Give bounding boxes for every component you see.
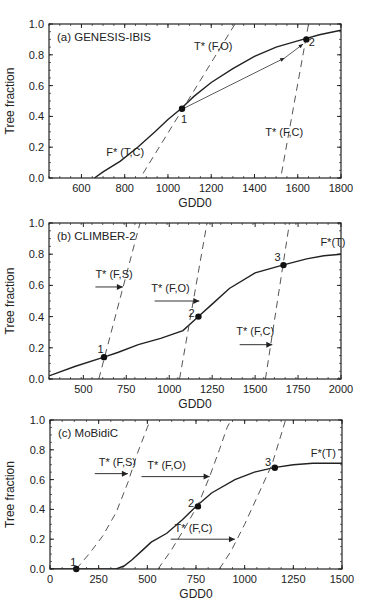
x-tick-label: 1400	[242, 182, 266, 194]
x-tick-label: 1000	[156, 182, 180, 194]
x-tick-label: 600	[72, 182, 90, 194]
x-axis-label: GDD0	[178, 196, 212, 210]
point-label: 1	[181, 113, 187, 125]
dashed-t-f-c-	[219, 420, 285, 569]
x-tick-label: 0	[47, 573, 53, 585]
y-tick-label: 1.0	[29, 18, 44, 30]
panels: 600800100012001400160018000.00.20.40.60.…	[3, 18, 354, 601]
x-tick-label: 2000	[329, 383, 353, 395]
arrow-head-icon	[204, 474, 210, 480]
panel-title: (a) GENESIS-IBIS	[57, 31, 151, 43]
panel-title: (b) CLIMBER-2	[57, 230, 136, 242]
point-label: 3	[265, 456, 271, 468]
y-axis-label: Tree fraction	[3, 268, 17, 335]
annotation-label: F*(T)	[311, 447, 336, 459]
y-tick-label: 1.0	[29, 217, 44, 229]
x-tick-label: 750	[187, 573, 205, 585]
curve-f-t-	[50, 463, 342, 569]
x-tick-label: 1600	[285, 182, 309, 194]
point-label: 1	[97, 343, 103, 355]
x-tick-label: 1250	[281, 573, 305, 585]
panel-b: 500750100012501500175020000.00.20.40.60.…	[3, 217, 353, 411]
arrow-line	[183, 58, 285, 109]
y-tick-label: 1.0	[30, 414, 45, 426]
y-tick-label: 0.2	[30, 533, 45, 545]
x-tick-label: 500	[74, 383, 92, 395]
y-tick-label: 0.4	[30, 503, 45, 515]
point-label: 3	[274, 251, 280, 263]
y-tick-label: 0.4	[29, 311, 44, 323]
x-tick-label: 1800	[329, 182, 353, 194]
annotation-label: T* (F,O)	[147, 459, 186, 471]
series-group	[50, 420, 342, 569]
annotation-label: T* (F,O)	[151, 282, 190, 294]
point-label: 2	[189, 307, 195, 319]
x-tick-label: 750	[117, 383, 135, 395]
x-tick-label: 1000	[232, 573, 256, 585]
y-tick-label: 0.6	[30, 474, 45, 486]
y-tick-label: 0.2	[29, 141, 44, 153]
annotation-label: T* (F,C)	[175, 522, 213, 534]
arrow-head-icon	[229, 536, 235, 542]
x-tick-label: 1500	[243, 383, 267, 395]
x-tick-label: 1750	[286, 383, 310, 395]
y-tick-label: 0.6	[29, 279, 44, 291]
equilibrium-point	[195, 503, 201, 509]
annotation-label: T* (F,S)	[99, 456, 136, 468]
annotation-label: T* (F,O)	[194, 40, 233, 52]
y-tick-label: 0.0	[29, 373, 44, 385]
x-axis-label: GDD0	[178, 397, 212, 411]
y-tick-label: 0.0	[29, 172, 44, 184]
dashed-t-f-c-	[282, 24, 309, 173]
x-axis-label: GDD0	[179, 587, 213, 601]
annotation-label: T* (F,S)	[95, 268, 132, 280]
panel-c: 02505007501000125015000.00.20.40.60.81.0…	[3, 414, 354, 601]
x-tick-label: 800	[116, 182, 134, 194]
dashed-t-f-o-	[158, 420, 231, 569]
dashed-t-f-c-	[265, 223, 289, 379]
y-tick-label: 0.8	[30, 444, 45, 456]
y-axis-label: Tree fraction	[3, 68, 17, 135]
panel-title: (c) MoBidiC	[58, 427, 118, 439]
arrow-head-icon	[298, 44, 303, 48]
equilibrium-point	[280, 262, 286, 268]
x-tick-label: 1500	[330, 573, 354, 585]
x-tick-label: 1250	[200, 383, 224, 395]
point-label: 1	[70, 556, 76, 568]
arrow-head-icon	[117, 284, 123, 290]
figure: 600800100012001400160018000.00.20.40.60.…	[0, 0, 369, 609]
equilibrium-point	[179, 106, 185, 112]
y-tick-label: 0.8	[29, 248, 44, 260]
x-tick-label: 500	[138, 573, 156, 585]
y-tick-label: 0.6	[29, 80, 44, 92]
y-axis-label: Tree fraction	[3, 461, 17, 528]
y-tick-label: 0.0	[30, 563, 45, 575]
annotation-label: T* (F,C)	[265, 126, 303, 138]
equilibrium-point	[195, 313, 201, 319]
annotation-label: F*(T)	[320, 236, 345, 248]
plot-frame	[50, 420, 342, 569]
y-tick-label: 0.2	[29, 342, 44, 354]
point-label: 2	[188, 497, 194, 509]
equilibrium-point	[272, 464, 278, 470]
x-tick-label: 1200	[199, 182, 223, 194]
dashed-t-f-s-	[76, 420, 150, 569]
curve-f-t-	[49, 254, 341, 376]
annotation-label: T* (F,C)	[236, 325, 274, 337]
arrow-head-icon	[122, 471, 128, 477]
x-tick-label: 250	[89, 573, 107, 585]
arrow-head-icon	[193, 298, 199, 304]
y-tick-label: 0.4	[29, 110, 44, 122]
point-label: 2	[309, 36, 315, 48]
panel-a: 600800100012001400160018000.00.20.40.60.…	[3, 18, 353, 210]
annotation-label: F* (T,C)	[106, 146, 144, 158]
x-tick-label: 1000	[157, 383, 181, 395]
y-tick-label: 0.8	[29, 49, 44, 61]
